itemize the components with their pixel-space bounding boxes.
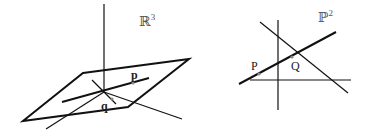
- space-label-p2: ℙ2: [318, 8, 333, 25]
- space-label-r3: ℝ3: [139, 12, 156, 29]
- point-P: [257, 72, 260, 75]
- r3-panel: p q ℝ3: [23, 4, 189, 129]
- diagram-canvas: p q ℝ3 P Q ℙ2: [0, 0, 370, 139]
- point-q: [110, 97, 113, 100]
- label-P: P: [251, 59, 258, 73]
- p2-panel: P Q ℙ2: [239, 8, 351, 110]
- label-Q: Q: [291, 59, 300, 73]
- label-p: p: [131, 68, 138, 82]
- line-through-PQ: [239, 32, 336, 84]
- label-q: q: [101, 99, 108, 113]
